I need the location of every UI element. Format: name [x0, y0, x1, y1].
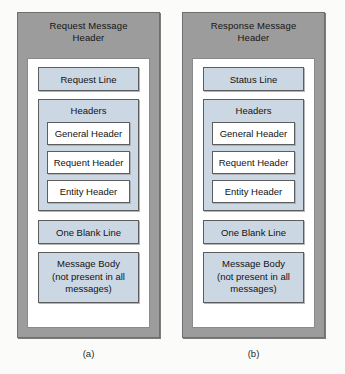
message-body-line2-request: (not present in all — [43, 271, 134, 284]
box-entity-header-response: Entity Header — [212, 180, 295, 203]
box-requent-header-response: Requent Header — [212, 151, 295, 174]
panel-title-response-line1: Response Message — [183, 20, 324, 32]
box-request-line: Request Line — [38, 67, 139, 91]
panel-response-inner-area: Status Line Headers General Header Reque… — [192, 58, 315, 328]
message-body-line3-request: messages) — [43, 283, 134, 296]
panel-request-inner-area: Request Line Headers General Header Requ… — [27, 58, 150, 328]
box-status-line: Status Line — [203, 67, 304, 91]
panel-response-message-header: Response Message Header Status Line Head… — [182, 12, 325, 338]
panel-title-request-line1: Request Message — [18, 20, 159, 32]
group-headers-request: Headers General Header Requent Header En… — [38, 99, 139, 211]
message-body-line1-response: Message Body — [208, 258, 299, 271]
caption-panel-b: (b) — [182, 348, 325, 359]
panel-title-response: Response Message Header — [183, 13, 324, 44]
box-general-header-request: General Header — [47, 122, 130, 145]
caption-panel-a: (a) — [17, 348, 160, 359]
box-one-blank-line-response: One Blank Line — [203, 220, 304, 244]
box-general-header-response: General Header — [212, 122, 295, 145]
panel-title-response-line2: Header — [183, 32, 324, 44]
box-one-blank-line-request: One Blank Line — [38, 220, 139, 244]
http-message-structure-diagram: Request Message Header Request Line Head… — [0, 0, 345, 374]
box-message-body-request: Message Body (not present in all message… — [38, 252, 139, 303]
headers-group-label-request: Headers — [47, 105, 130, 117]
panel-request-message-header: Request Message Header Request Line Head… — [17, 12, 160, 338]
group-headers-response: Headers General Header Requent Header En… — [203, 99, 304, 211]
box-requent-header-request: Requent Header — [47, 151, 130, 174]
box-message-body-response: Message Body (not present in all message… — [203, 252, 304, 303]
message-body-line2-response: (not present in all — [208, 271, 299, 284]
panel-title-request: Request Message Header — [18, 13, 159, 44]
headers-group-label-response: Headers — [212, 105, 295, 117]
panel-title-request-line2: Header — [18, 32, 159, 44]
message-body-line1-request: Message Body — [43, 258, 134, 271]
box-entity-header-request: Entity Header — [47, 180, 130, 203]
message-body-line3-response: messages) — [208, 283, 299, 296]
